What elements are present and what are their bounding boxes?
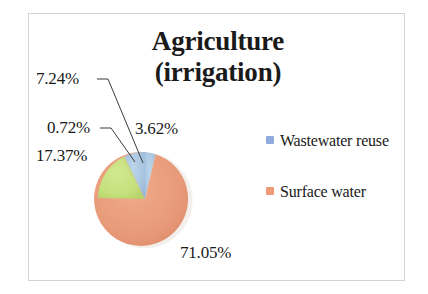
pie-label-1737: 17.37%	[36, 146, 87, 166]
pie-chart[interactable]	[92, 146, 198, 252]
pie-label-7105: 71.05%	[180, 243, 231, 263]
pie-label-362: 3.62%	[135, 119, 178, 139]
pie-label-072: 0.72%	[47, 118, 90, 138]
chart-title: Agriculture (irrigation)	[118, 26, 318, 89]
chart-title-line-1: Agriculture	[118, 26, 318, 57]
pie-label-724: 7.24%	[36, 69, 79, 89]
legend-swatch-icon-wastewater-reuse	[266, 136, 274, 144]
legend-label-surface-water: Surface water	[280, 182, 366, 201]
legend-item-surface-water[interactable]: Surface water	[266, 182, 396, 201]
chart-plot-area: Agriculture (irrigation)	[0, 0, 428, 294]
legend-label-wastewater-reuse: Wastewater reuse	[280, 131, 389, 150]
chart-legend: Wastewater reuse Surface water	[266, 131, 396, 233]
legend-item-wastewater-reuse[interactable]: Wastewater reuse	[266, 131, 396, 150]
legend-swatch-icon-surface-water	[266, 187, 274, 195]
chart-title-line-2: (irrigation)	[118, 57, 318, 88]
